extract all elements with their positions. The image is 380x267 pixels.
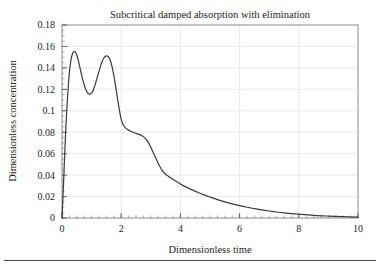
x-axis-tick-labels: 0246810	[60, 223, 364, 234]
y-tick-label: 0.06	[38, 148, 56, 159]
data-series-line	[62, 51, 358, 218]
y-tick-label: 0.12	[38, 84, 56, 95]
y-tick-label: 0.18	[38, 19, 56, 30]
x-axis-title: Dimensionless time	[168, 244, 251, 255]
x-tick-label: 0	[60, 223, 65, 234]
chart-title: Subcritical damped absorption with elimi…	[110, 9, 311, 20]
plot-frame	[62, 25, 358, 218]
y-tick-label: 0.02	[38, 191, 56, 202]
x-tick-label: 4	[178, 223, 183, 234]
x-tick-label: 8	[296, 223, 301, 234]
y-tick-label: 0.08	[38, 127, 56, 138]
y-axis-tick-labels: 00.020.040.060.080.10.120.140.160.18	[38, 19, 56, 223]
footer-rule	[4, 260, 376, 261]
chart-canvas: 00.020.040.060.080.10.120.140.160.18 024…	[0, 0, 380, 267]
y-axis-title: Dimensionless concentration	[7, 59, 18, 181]
x-tick-label: 10	[353, 223, 363, 234]
y-tick-label: 0.16	[38, 41, 56, 52]
y-tick-label: 0.14	[38, 62, 56, 73]
x-tick-label: 2	[119, 223, 124, 234]
y-tick-label: 0	[50, 212, 55, 223]
y-tick-label: 0.1	[43, 105, 56, 116]
grid-lines	[62, 25, 358, 218]
figure: 00.020.040.060.080.10.120.140.160.18 024…	[0, 0, 380, 267]
x-tick-label: 6	[237, 223, 242, 234]
y-tick-label: 0.04	[38, 170, 56, 181]
